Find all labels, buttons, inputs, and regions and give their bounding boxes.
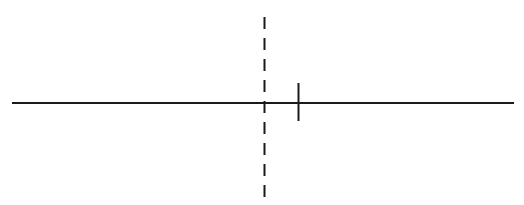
diagram-canvas: Number line with dashed vertical referen… [0,0,524,205]
number-line-svg [0,0,524,205]
